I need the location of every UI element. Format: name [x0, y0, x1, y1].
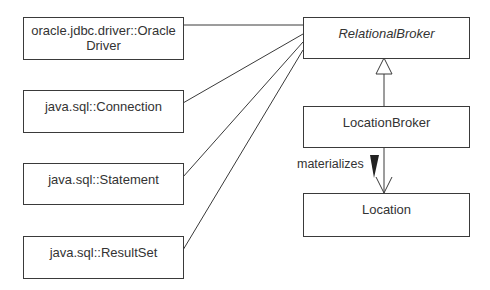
association-label-materializes: materializes	[297, 157, 364, 171]
generalization-arrowhead-icon	[376, 58, 392, 74]
association-connection	[183, 34, 303, 103]
class-relational-broker[interactable]: RelationalBroker	[303, 17, 470, 59]
association-resultset	[183, 50, 303, 250]
class-name: Location	[362, 202, 411, 217]
class-oracle-driver[interactable]: oracle.jdbc.driver::Oracle Driver	[23, 17, 184, 60]
class-name-line1: oracle.jdbc.driver::Oracle	[24, 23, 183, 38]
class-resultset[interactable]: java.sql::ResultSet	[23, 236, 184, 279]
association-statement	[183, 42, 303, 177]
class-connection[interactable]: java.sql::Connection	[23, 90, 184, 133]
name-direction-triangle-icon	[370, 155, 379, 178]
class-name: RelationalBroker	[338, 26, 434, 41]
class-name: java.sql::Statement	[48, 172, 159, 187]
class-location-broker[interactable]: LocationBroker	[303, 106, 470, 148]
class-location[interactable]: Location	[303, 193, 470, 237]
class-name: LocationBroker	[343, 115, 430, 130]
class-statement[interactable]: java.sql::Statement	[23, 163, 184, 205]
class-name-line2: Driver	[24, 38, 183, 53]
class-name: java.sql::ResultSet	[50, 245, 158, 260]
class-name: java.sql::Connection	[45, 99, 162, 114]
